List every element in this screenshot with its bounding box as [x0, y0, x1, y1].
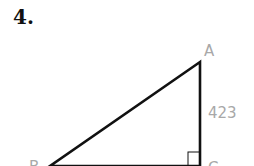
triangle-abc	[50, 62, 200, 166]
triangle-figure: A B C 423	[0, 0, 254, 166]
vertex-label-c: C	[208, 159, 218, 166]
side-label-ac: 423	[208, 104, 237, 122]
problem-4-diagram: 4. A B C 423	[0, 0, 254, 166]
vertex-label-a: A	[204, 42, 215, 60]
right-angle-mark	[188, 152, 200, 166]
vertex-label-b: B	[29, 158, 39, 166]
